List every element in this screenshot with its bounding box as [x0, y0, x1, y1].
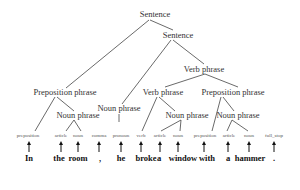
pos-label: preposition — [194, 133, 217, 138]
pos-label: pronoun — [113, 133, 130, 138]
word: window — [169, 153, 198, 163]
node-sentence-root: Sentence — [140, 9, 171, 19]
pos-label: noun — [173, 133, 184, 138]
pos-label: comma — [92, 133, 107, 138]
phrase-nodes: Sentence Sentence Verb phrase Prepositio… — [33, 9, 264, 120]
node-verb-phrase-outer: Verb phrase — [184, 64, 225, 74]
pos-labels: preposition article noun comma pronoun v… — [17, 133, 284, 138]
word: hammer — [235, 153, 266, 163]
arrows — [29, 143, 274, 152]
word: broke — [135, 153, 156, 163]
node-preposition-phrase-left: Preposition phrase — [33, 87, 96, 97]
node-preposition-phrase-right: Preposition phrase — [201, 87, 264, 97]
node-noun-phrase-room: Noun phrase — [56, 110, 99, 120]
pos-label: article — [154, 133, 167, 138]
node-sentence-inner: Sentence — [163, 30, 194, 40]
word: a — [226, 153, 231, 163]
word: a — [157, 153, 162, 163]
parse-tree-diagram: Sentence Sentence Verb phrase Prepositio… — [0, 0, 300, 190]
node-noun-phrase-window: Noun phrase — [165, 110, 208, 120]
pos-label: article — [55, 133, 68, 138]
node-verb-phrase-inner: Verb phrase — [143, 87, 184, 97]
pos-label: article — [223, 133, 236, 138]
word: In — [25, 153, 33, 163]
word: . — [273, 153, 275, 163]
pos-label: full_stop — [265, 133, 283, 138]
pos-label: noun — [73, 133, 84, 138]
word: room — [68, 153, 87, 163]
pos-label: preposition — [17, 133, 40, 138]
word: the — [53, 153, 65, 163]
pos-label: verb — [137, 133, 146, 138]
node-noun-phrase-hammer: Noun phrase — [216, 110, 259, 120]
word: he — [117, 153, 126, 163]
pos-label: noun — [244, 133, 255, 138]
word: with — [199, 153, 215, 163]
node-noun-phrase-he: Noun phrase — [97, 103, 140, 113]
word: , — [99, 153, 101, 163]
sentence-words: In the room , he broke a window with a h… — [25, 153, 275, 163]
